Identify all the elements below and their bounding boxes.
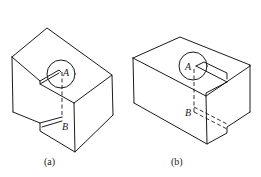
figure-b-label-B: B — [185, 107, 191, 118]
figure-b-label-A: A — [184, 61, 192, 72]
diagram-canvas: A B (a) A B (b) — [0, 0, 261, 177]
figure-b-highlight-circle — [179, 52, 207, 80]
figure-a-top-front-edge — [12, 57, 74, 103]
figure-a-bottom-edges — [13, 112, 113, 152]
figure-a-caption: (a) — [44, 156, 55, 168]
figure-b-caption: (b) — [171, 156, 183, 168]
figure-b: A B (b) — [133, 37, 250, 168]
figure-a-top-slot — [40, 70, 61, 81]
figure-a: A B (a) — [12, 28, 113, 168]
figure-a-label-B: B — [62, 121, 68, 132]
figure-b-bottom-edges — [134, 103, 250, 144]
figure-b-top-slot — [196, 62, 227, 79]
figure-a-label-A: A — [62, 67, 70, 78]
figure-b-top-face — [133, 37, 250, 66]
